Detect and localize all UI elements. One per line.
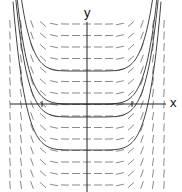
slope-segment [128,56,134,61]
y-axis-label: y [84,6,91,19]
slope-segment [10,124,11,132]
slope-segment [116,150,124,152]
slope-segment [116,35,124,37]
slope-segment [141,20,144,28]
slope-segment [50,46,58,48]
slope-segment [10,112,11,120]
slope-segment [10,147,11,155]
slope-segment [128,67,134,72]
slope-segment [31,147,34,155]
slope-segment [50,127,58,129]
slope-segment [20,124,21,132]
slope-segment [128,171,134,176]
slope-segment [20,55,21,63]
slope-segment [20,181,21,189]
slope-segment [141,135,144,143]
slope-segment [31,135,34,143]
slope-segment [40,113,46,118]
slope-segment [10,135,11,143]
slope-segment [164,43,165,51]
slope-segment [116,92,124,94]
slope-segment [141,66,144,74]
slope-segment [116,81,124,83]
slope-segment [40,21,46,26]
slope-segment [50,35,58,37]
slope-segment [10,55,11,63]
slope-segment [31,32,34,40]
slope-segment [141,112,144,120]
slope-segment [116,161,124,163]
slope-segment [128,148,134,153]
slope-segment [50,138,58,140]
slope-segment [164,89,165,97]
slope-segment [20,89,21,97]
slope-segment [40,79,46,84]
slope-segment [10,20,11,28]
slope-segment [20,135,21,143]
slope-segment [141,147,144,155]
x-axis-label: x [170,96,177,109]
slope-segment [50,161,58,163]
slope-segment [164,78,165,86]
slope-segment [164,32,165,40]
slope-segment [164,170,165,178]
slope-segment [10,78,11,86]
slope-segment [141,55,144,63]
slope-segment [164,147,165,155]
slope-segment [116,58,124,60]
slope-segment [40,67,46,72]
slope-segment [128,44,134,49]
slope-segment [152,55,153,63]
slope-segment [164,124,165,132]
slope-segment [50,81,58,83]
slope-segment [31,112,34,120]
slope-segment [50,184,58,186]
slope-segment [152,89,153,97]
slope-segment [10,89,11,97]
slope-segment [152,170,153,178]
slope-segment [50,150,58,152]
slope-segment [10,181,11,189]
slope-segment [50,58,58,60]
slope-segment [152,124,153,132]
slope-segment [128,33,134,38]
slope-segment [164,66,165,74]
slope-segment [50,173,58,175]
slope-segment [10,158,11,166]
slope-segment [164,20,165,28]
slope-segment [164,158,165,166]
slope-segment [20,170,21,178]
slope-segment [10,66,11,74]
slope-segment [116,184,124,186]
slope-segment [31,66,34,74]
slope-segment [116,127,124,129]
slope-segment [152,158,153,166]
slope-segment [40,56,46,61]
slope-segment [128,125,134,130]
slope-segment [31,181,34,189]
slope-segment [152,135,153,143]
slope-segment [141,170,144,178]
slope-segment [141,32,144,40]
slope-segment [10,170,11,178]
slope-segment [31,170,34,178]
slope-segment [152,147,153,155]
slope-segment [20,147,21,155]
slope-segment [40,182,46,187]
slope-segment [40,33,46,38]
slope-segment [164,112,165,120]
slope-segment [40,148,46,153]
slope-segment [50,92,58,94]
slope-segment [128,182,134,187]
slope-segment [31,55,34,63]
slope-segment [40,44,46,49]
slope-segment [141,181,144,189]
slope-segment [141,158,144,166]
slope-segment [164,181,165,189]
slope-segment [164,135,165,143]
slope-segment [152,181,153,189]
slope-segment [128,79,134,84]
slope-segment [40,171,46,176]
slope-segment [31,20,34,28]
slope-segment [164,55,165,63]
